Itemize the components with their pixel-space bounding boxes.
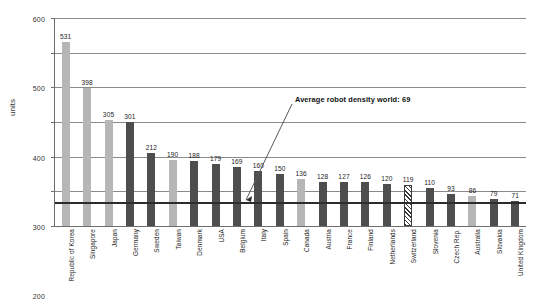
bar-value-label: 86 xyxy=(469,187,477,194)
bar-slot: 86 xyxy=(462,18,483,226)
category-slot: Australia xyxy=(461,229,482,305)
bar-value-label: 160 xyxy=(253,162,264,169)
x-axis-category-label: Czech Rep. xyxy=(453,229,460,263)
category-slot: Denmark xyxy=(182,229,203,305)
bar-value-label: 398 xyxy=(81,79,92,86)
y-axis-tick-label: 300 xyxy=(33,224,45,231)
y-axis-tick-label: 200 xyxy=(33,293,45,300)
category-slot: Taiwan xyxy=(161,229,182,305)
bar-value-label: 110 xyxy=(424,179,435,186)
category-slot: Netherlands xyxy=(375,229,396,305)
bar[interactable] xyxy=(126,122,134,226)
robot-density-chart: units 0100200300400500600 53139830530121… xyxy=(0,0,540,307)
bar-value-label: 120 xyxy=(381,175,392,182)
bar[interactable] xyxy=(190,161,198,226)
category-slot: Germany xyxy=(118,229,139,305)
y-axis-tick-label: 500 xyxy=(33,85,45,92)
bar-value-label: 305 xyxy=(103,111,114,118)
category-slot: Finland xyxy=(354,229,375,305)
category-slot: Belgium xyxy=(225,229,246,305)
bar-value-label: 126 xyxy=(360,173,371,180)
bar-value-label: 190 xyxy=(167,151,178,158)
bar[interactable] xyxy=(169,160,177,226)
category-slot: Republic of Korea xyxy=(54,229,75,305)
bar-value-label: 128 xyxy=(317,173,328,180)
category-slot: Austria xyxy=(311,229,332,305)
bar-slot: 93 xyxy=(440,18,461,226)
bar[interactable] xyxy=(233,167,241,226)
x-axis-category-label: Taiwan xyxy=(175,229,182,250)
bar-slot: 188 xyxy=(183,18,204,226)
bar[interactable] xyxy=(468,196,476,226)
category-slot: Spain xyxy=(268,229,289,305)
plot-area: 0100200300400500600 53139830530121219018… xyxy=(54,18,526,227)
bar[interactable] xyxy=(83,88,91,226)
x-axis-category-label: Singapore xyxy=(89,229,96,259)
category-slot: United Kingdom xyxy=(504,229,525,305)
category-slot: Canada xyxy=(290,229,311,305)
bar[interactable] xyxy=(361,182,369,226)
bar[interactable] xyxy=(426,188,434,226)
category-slot: Slovakia xyxy=(482,229,503,305)
bar-value-label: 169 xyxy=(231,158,242,165)
x-axis-category-label: Denmark xyxy=(196,229,203,256)
bar-slot: 128 xyxy=(312,18,333,226)
bar-slot: 179 xyxy=(205,18,226,226)
bar-value-label: 212 xyxy=(146,144,157,151)
bar[interactable] xyxy=(62,42,70,226)
category-slot: Sweden xyxy=(140,229,161,305)
bar[interactable] xyxy=(276,174,284,226)
bar-slot: 531 xyxy=(55,18,76,226)
bar-value-label: 127 xyxy=(338,173,349,180)
bar-slot: 160 xyxy=(248,18,269,226)
bar-value-label: 79 xyxy=(490,190,498,197)
category-slot: France xyxy=(332,229,353,305)
bar-slot: 169 xyxy=(226,18,247,226)
y-axis-tick-label: 600 xyxy=(33,16,45,23)
bar-slot: 301 xyxy=(119,18,140,226)
bar[interactable] xyxy=(383,184,391,226)
bar-slot: 127 xyxy=(333,18,354,226)
bar-value-label: 531 xyxy=(60,33,71,40)
y-axis-title: units xyxy=(8,99,17,116)
x-axis-category-label: Finland xyxy=(367,229,374,251)
x-axis-category-label: Austria xyxy=(325,229,332,250)
bar-value-label: 71 xyxy=(512,192,520,199)
bar-value-label: 136 xyxy=(296,170,307,177)
x-axis-category-label: Belgium xyxy=(239,229,246,253)
bar-slot: 71 xyxy=(505,18,526,226)
bar-slot: 110 xyxy=(419,18,440,226)
bar[interactable] xyxy=(105,120,113,226)
category-slot: Switzerland xyxy=(397,229,418,305)
bar-value-label: 301 xyxy=(124,113,135,120)
bar-slot: 79 xyxy=(483,18,504,226)
bar-value-label: 150 xyxy=(274,165,285,172)
category-slot: Italy xyxy=(247,229,268,305)
category-labels-layer: Republic of KoreaSingaporeJapanGermanySw… xyxy=(54,229,526,305)
category-slot: Singapore xyxy=(75,229,96,305)
x-axis-category-label: Slovakia xyxy=(496,229,503,254)
x-axis-category-label: Canada xyxy=(303,229,310,252)
bar[interactable] xyxy=(511,201,519,226)
x-axis-category-label: Australia xyxy=(474,229,481,255)
x-axis-category-label: USA xyxy=(218,229,225,242)
y-axis-tick: 0 xyxy=(51,226,55,227)
bar[interactable] xyxy=(404,185,412,226)
category-slot: Czech Rep. xyxy=(439,229,460,305)
bar[interactable] xyxy=(147,153,155,226)
bar[interactable] xyxy=(212,164,220,226)
bar-value-label: 93 xyxy=(447,185,455,192)
x-axis-category-label: Germany xyxy=(132,229,139,256)
x-axis-category-label: Republic of Korea xyxy=(68,229,75,282)
bar-slot: 150 xyxy=(269,18,290,226)
bar[interactable] xyxy=(254,171,262,226)
x-axis-category-label: Slovenia xyxy=(432,229,439,254)
bar[interactable] xyxy=(447,194,455,226)
x-axis-category-label: United Kingdom xyxy=(517,229,524,276)
x-axis-category-label: Japan xyxy=(111,229,118,247)
x-axis-category-label: Switzerland xyxy=(410,229,417,263)
category-slot: Slovenia xyxy=(418,229,439,305)
bar-slot: 305 xyxy=(98,18,119,226)
bar-slot: 119 xyxy=(398,18,419,226)
bar-value-label: 188 xyxy=(189,152,200,159)
